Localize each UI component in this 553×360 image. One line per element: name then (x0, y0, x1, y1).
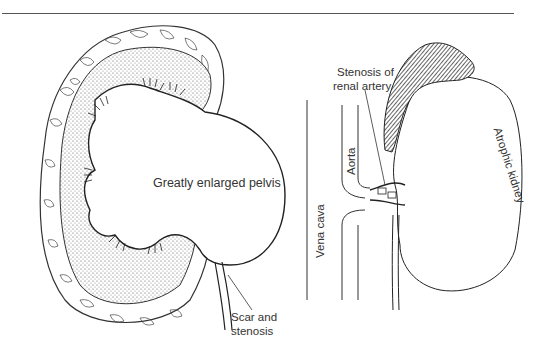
label-greatly-enlarged-pelvis: Greatly enlarged pelvis (153, 177, 281, 190)
label-aorta: Aorta (345, 148, 358, 176)
label-stenosis-of-renal-artery-line2: renal artery (333, 80, 391, 93)
label-scar-and-stenosis-line1: Scar and (231, 311, 277, 324)
label-scar-and-stenosis-line2: stenosis (231, 325, 273, 338)
label-stenosis-of-renal-artery-line1: Stenosis of (337, 66, 394, 79)
scar-leader-line (228, 275, 252, 310)
label-vena-cava: Vena cava (314, 204, 327, 258)
